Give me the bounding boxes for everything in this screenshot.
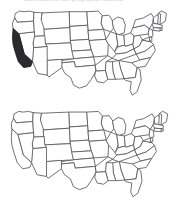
- page-root: illustration of the geographic location: [0, 0, 179, 215]
- state-south-dakota[interactable]: [70, 25, 89, 40]
- state-new-mexico[interactable]: [47, 59, 62, 77]
- us-map-california-highlighted: [0, 7, 179, 104]
- us-map-blank: [0, 104, 179, 209]
- state-montana[interactable]: [41, 12, 70, 30]
- state-new-jersey[interactable]: [148, 29, 153, 38]
- state-connecticut[interactable]: [155, 128, 162, 132]
- state-indiana[interactable]: [117, 135, 125, 148]
- state-colorado[interactable]: [45, 43, 73, 61]
- state-north-dakota[interactable]: [70, 12, 88, 27]
- state-wyoming[interactable]: [44, 128, 71, 145]
- state-iowa[interactable]: [88, 29, 106, 40]
- state-new-jersey[interactable]: [149, 129, 154, 138]
- us-map-svg-highlighted: [0, 7, 179, 104]
- state-utah[interactable]: [32, 137, 46, 149]
- header-strip: illustration of the geographic location: [0, 0, 179, 7]
- state-north-dakota[interactable]: [69, 112, 87, 127]
- state-washington[interactable]: [14, 111, 34, 122]
- us-map-svg-blank: [0, 104, 179, 209]
- page-title: illustration of the geographic location: [24, 0, 156, 2]
- state-shapes-blank: [11, 111, 167, 196]
- state-vermont[interactable]: [154, 15, 159, 24]
- state-colorado[interactable]: [45, 144, 74, 162]
- state-iowa[interactable]: [88, 130, 106, 141]
- state-nebraska[interactable]: [70, 140, 91, 152]
- state-michigan[interactable]: [112, 17, 125, 35]
- state-nebraska[interactable]: [71, 39, 92, 51]
- state-arizona[interactable]: [32, 46, 47, 75]
- state-utah[interactable]: [33, 36, 47, 48]
- state-wyoming[interactable]: [44, 28, 70, 44]
- state-south-dakota[interactable]: [70, 126, 89, 142]
- state-louisiana[interactable]: [95, 70, 108, 82]
- state-arizona[interactable]: [32, 147, 47, 176]
- state-connecticut[interactable]: [154, 28, 160, 32]
- state-michigan[interactable]: [113, 117, 126, 135]
- state-new-mexico[interactable]: [47, 160, 62, 178]
- state-shapes: [12, 11, 166, 95]
- state-louisiana[interactable]: [95, 172, 108, 185]
- state-wisconsin[interactable]: [101, 15, 113, 31]
- state-washington[interactable]: [15, 11, 34, 22]
- state-minnesota[interactable]: [87, 11, 103, 30]
- state-indiana[interactable]: [117, 34, 125, 47]
- state-vermont[interactable]: [155, 116, 160, 125]
- state-minnesota[interactable]: [87, 111, 104, 131]
- state-montana[interactable]: [41, 112, 70, 130]
